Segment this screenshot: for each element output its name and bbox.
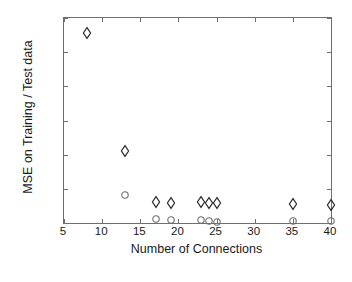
y-axis-title: MSE on Training / Test data: [21, 17, 35, 217]
y-axis-tick-labels: 00.020.040.060.080.10.12: [0, 0, 352, 282]
figure-canvas: 510152025303540 00.020.040.060.080.10.12…: [0, 0, 352, 282]
x-axis-title: Number of Connections: [63, 242, 330, 256]
